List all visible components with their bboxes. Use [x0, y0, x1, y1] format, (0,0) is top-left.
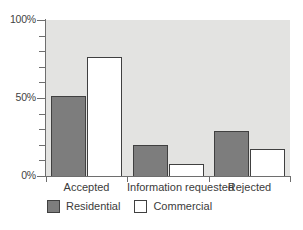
bar-chart: 100%50%0% AcceptedInformation requestedR…: [0, 0, 303, 230]
x-axis-line: [45, 176, 291, 177]
y-axis-tick: [37, 98, 45, 99]
y-axis-label-text: 50%: [2, 92, 36, 103]
filled-gray-swatch: [47, 200, 60, 213]
y-axis-tick: [39, 129, 45, 130]
legend-label: Residential: [66, 200, 120, 213]
x-axis-tick: [290, 177, 291, 182]
legend-item-commercial: Commercial: [134, 200, 212, 213]
y-axis-tick: [39, 36, 45, 37]
bar-residential-accepted: [51, 96, 86, 177]
chart-legend: ResidentialCommercial: [47, 200, 212, 213]
x-axis-label-information-requested: Information requested: [127, 181, 208, 194]
bar-commercial-rejected: [250, 149, 285, 177]
y-axis-tick: [39, 160, 45, 161]
y-axis-label-text: 100%: [2, 14, 36, 25]
y-axis-tick: [39, 114, 45, 115]
bar-commercial-accepted: [87, 57, 122, 177]
y-axis-tick: [37, 20, 45, 21]
x-axis-label-rejected: Rejected: [209, 181, 290, 194]
outlined-white-swatch: [134, 200, 147, 213]
y-axis-tick: [39, 51, 45, 52]
legend-label: Commercial: [153, 200, 212, 213]
y-axis-tick: [39, 145, 45, 146]
legend-item-residential: Residential: [47, 200, 120, 213]
x-axis-label-accepted: Accepted: [46, 181, 127, 194]
y-axis-tick: [39, 82, 45, 83]
y-axis-label-text: 0%: [2, 170, 36, 181]
y-axis-tick: [39, 67, 45, 68]
y-axis-tick: [37, 176, 45, 177]
y-axis-label: 100%: [0, 14, 36, 25]
bar-residential-information-requested: [133, 145, 168, 177]
y-axis-label: 50%: [0, 92, 36, 103]
bar-residential-rejected: [214, 131, 249, 177]
y-axis-line: [45, 19, 46, 177]
y-axis-label: 0%: [0, 170, 36, 181]
